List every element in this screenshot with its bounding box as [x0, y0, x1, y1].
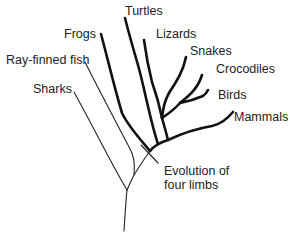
label-sharks: Sharks	[33, 82, 72, 96]
label-ray-finned-fish: Ray-finned fish	[6, 53, 89, 67]
branch-reptile-stem	[162, 118, 168, 140]
branch-mammals	[168, 112, 233, 140]
branch-amniote-stem	[150, 140, 168, 151]
branch-frogs	[101, 34, 150, 151]
label-frogs: Frogs	[64, 27, 96, 41]
root-branch	[124, 190, 127, 231]
branch-bony-fish-stem	[127, 151, 150, 190]
label-crocodiles: Crocodiles	[216, 62, 275, 76]
label-turtles: Turtles	[125, 4, 163, 18]
label-mammals: Mammals	[234, 110, 288, 124]
branch-snakes	[169, 57, 186, 93]
label-birds: Birds	[218, 88, 246, 102]
label-lizards: Lizards	[156, 27, 196, 41]
annotation-four-limbs-line2: four limbs	[164, 178, 218, 192]
label-snakes: Snakes	[190, 44, 232, 58]
annotation-four-limbs-line1: Evolution of	[164, 164, 229, 178]
